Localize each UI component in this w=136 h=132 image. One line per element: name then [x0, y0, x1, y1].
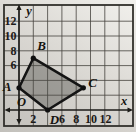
- y-tick-8: 8: [11, 44, 17, 58]
- y-tick-6: 6: [11, 58, 17, 72]
- coordinate-grid-figure: 12 10 8 6 2 6 8 10 12 A B C D O x y: [0, 0, 136, 132]
- vertex-dot-a: [16, 85, 21, 90]
- textbook-figure: 12 10 8 6 2 6 8 10 12 A B C D O x y: [0, 0, 136, 132]
- vertex-label-b: B: [36, 38, 46, 53]
- x-axis-left-arrow-icon: [5, 107, 11, 112]
- x-axis-label: x: [120, 94, 127, 108]
- y-tick-10: 10: [5, 29, 17, 43]
- vertex-dot-b: [31, 56, 36, 61]
- x-tick-2: 2: [30, 112, 36, 126]
- y-tick-12: 12: [5, 14, 17, 28]
- x-tick-6: 6: [59, 112, 65, 126]
- vertex-label-d: D: [49, 112, 60, 127]
- x-tick-8: 8: [73, 112, 79, 126]
- x-tick-10: 10: [85, 112, 97, 126]
- x-axis-tick-labels: 2 6 8 10 12: [30, 112, 111, 126]
- vertex-label-c: C: [88, 75, 97, 90]
- vertex-label-a: A: [2, 79, 12, 94]
- x-tick-12: 12: [100, 112, 112, 126]
- y-axis-tick-labels: 12 10 8 6: [5, 14, 17, 72]
- y-axis-label: y: [24, 4, 32, 18]
- origin-label: O: [17, 95, 26, 109]
- vertex-dot-c: [81, 85, 86, 90]
- y-axis-down-arrow-icon: [16, 119, 21, 125]
